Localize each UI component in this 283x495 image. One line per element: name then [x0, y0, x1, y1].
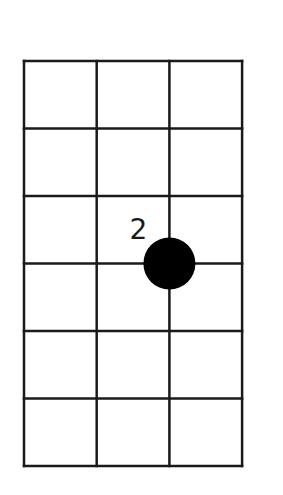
finger-dots: 2 — [129, 213, 195, 290]
finger-number-label: 2 — [129, 213, 147, 246]
finger-dot — [143, 238, 195, 290]
fret-grid — [24, 61, 242, 466]
chord-diagram: 2 — [0, 0, 283, 495]
